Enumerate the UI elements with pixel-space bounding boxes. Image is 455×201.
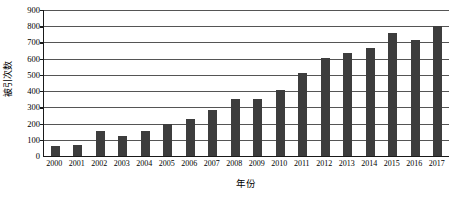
bar[interactable] — [51, 146, 60, 156]
bar-slot — [44, 10, 67, 156]
bar[interactable] — [276, 90, 285, 156]
bar[interactable] — [186, 119, 195, 156]
y-axis-title-label: 被引次数 — [4, 60, 13, 96]
y-axis-tick-label: 0 — [14, 152, 40, 160]
x-axis-tick-label: 2013 — [336, 159, 359, 173]
x-axis-tick-label: 2007 — [201, 159, 224, 173]
y-axis-tick-label: 600 — [14, 55, 40, 63]
bar-slot — [314, 10, 337, 156]
bar-slot — [179, 10, 202, 156]
y-axis-tick-label: 300 — [14, 103, 40, 111]
bar-slot — [67, 10, 90, 156]
bar-slot — [224, 10, 247, 156]
x-axis-tick-label: 2017 — [426, 159, 449, 173]
bar[interactable] — [163, 124, 172, 156]
x-axis-tick-label: 2001 — [66, 159, 89, 173]
bar-slot — [269, 10, 292, 156]
bar[interactable] — [231, 99, 240, 156]
bar-slot — [404, 10, 427, 156]
bar-slot — [337, 10, 360, 156]
bar-chart-figure: 被引次数 9008007006005004003002001000 200020… — [0, 0, 455, 201]
bar-slot — [382, 10, 405, 156]
bar[interactable] — [298, 73, 307, 156]
x-axis-tick-label: 2010 — [268, 159, 291, 173]
bar-slot — [112, 10, 135, 156]
y-axis-tick-label: 400 — [14, 87, 40, 95]
bar[interactable] — [321, 58, 330, 156]
bar[interactable] — [96, 131, 105, 156]
bar-slot — [157, 10, 180, 156]
x-axis-tick-label: 2004 — [133, 159, 156, 173]
y-axis-tick-label: 200 — [14, 120, 40, 128]
bar-slot — [134, 10, 157, 156]
bar-series — [44, 10, 449, 156]
x-axis-tick-label: 2005 — [156, 159, 179, 173]
bar[interactable] — [433, 26, 442, 156]
bar-slot — [247, 10, 270, 156]
x-axis-tick-label: 2014 — [358, 159, 381, 173]
x-axis-tick-label: 2012 — [313, 159, 336, 173]
bar[interactable] — [366, 48, 375, 156]
x-axis-tick-label: 2011 — [291, 159, 314, 173]
bar[interactable] — [208, 110, 217, 156]
x-axis-tick-label: 2002 — [88, 159, 111, 173]
bar[interactable] — [141, 131, 150, 156]
y-axis-tick-label: 500 — [14, 71, 40, 79]
bar-slot — [359, 10, 382, 156]
bar-slot — [89, 10, 112, 156]
y-axis-tick-label: 900 — [14, 6, 40, 14]
x-axis-tick-label: 2006 — [178, 159, 201, 173]
x-axis-tick-labels: 2000200120022003200420052006200720082009… — [43, 159, 448, 173]
bar[interactable] — [73, 145, 82, 156]
bar[interactable] — [411, 40, 420, 156]
bar[interactable] — [388, 33, 397, 156]
y-axis-tick-label: 700 — [14, 38, 40, 46]
x-axis-tick-label: 2003 — [111, 159, 134, 173]
x-axis-tick-label: 2008 — [223, 159, 246, 173]
bar[interactable] — [118, 136, 127, 156]
x-axis-tick-label: 2015 — [381, 159, 404, 173]
plot-area — [43, 10, 449, 157]
x-axis-title: 年份 — [43, 176, 448, 190]
bar[interactable] — [253, 99, 262, 156]
x-axis-tick-label: 2000 — [43, 159, 66, 173]
x-axis-tick-label: 2016 — [403, 159, 426, 173]
bar-slot — [202, 10, 225, 156]
y-axis-tick-label: 100 — [14, 136, 40, 144]
y-axis-tick-labels: 9008007006005004003002001000 — [14, 6, 40, 156]
bar-slot — [292, 10, 315, 156]
bar-slot — [427, 10, 450, 156]
bar[interactable] — [343, 53, 352, 156]
y-axis-tick-label: 800 — [14, 22, 40, 30]
x-axis-tick-label: 2009 — [246, 159, 269, 173]
